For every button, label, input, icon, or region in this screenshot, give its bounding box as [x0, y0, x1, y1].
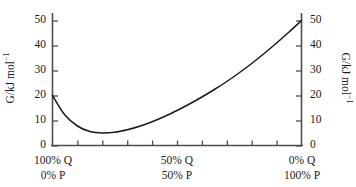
gibbs-energy-curve	[53, 21, 302, 134]
plot-area	[0, 0, 356, 187]
y-axis-right-ticks	[296, 21, 302, 146]
chart-figure: G/kJ mol−1 G/kJ mol−1 50 40 30 20 10 0 5…	[0, 0, 356, 187]
axis-lines	[51, 13, 303, 146]
y-axis-left-ticks	[53, 21, 59, 146]
